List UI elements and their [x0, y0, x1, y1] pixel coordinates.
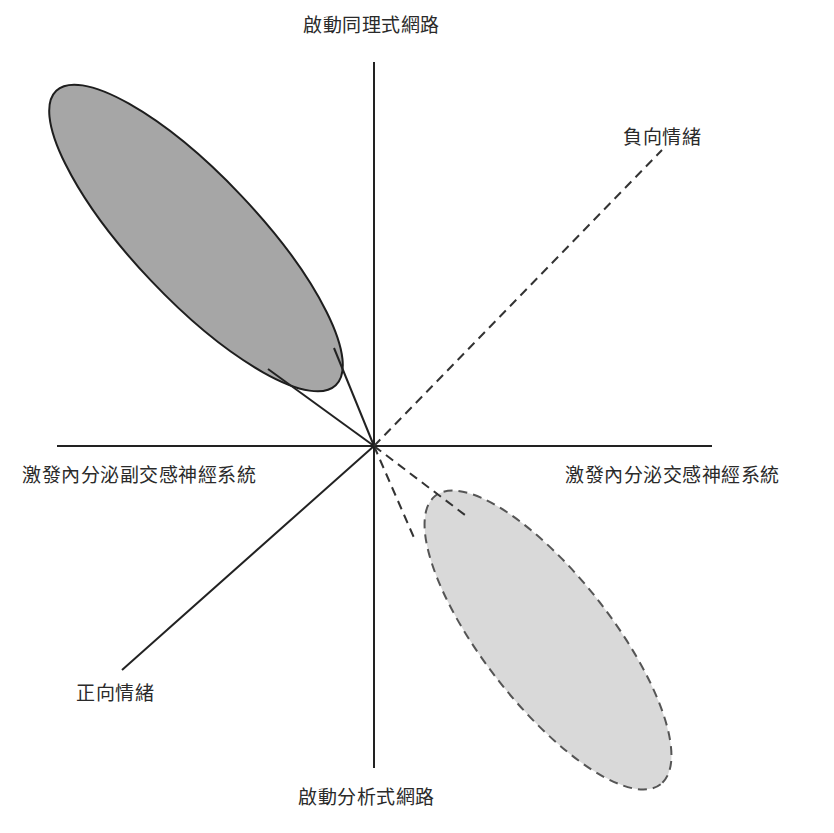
- dashed-tangent-1: [374, 446, 465, 515]
- positive-emotion-ellipse: [11, 48, 380, 428]
- negative-emotion-ellipse: [385, 456, 711, 823]
- axis-label-left: 激發內分泌副交感神經系統: [22, 460, 256, 487]
- axis-label-right: 激發內分泌交感神經系統: [565, 460, 780, 487]
- diagonal-label-positive: 正向情緒: [76, 678, 154, 705]
- negative-emotion-diagonal: [374, 150, 662, 446]
- diagonal-label-negative: 負向情緒: [623, 122, 701, 149]
- diagram-canvas: [0, 0, 834, 833]
- dashed-tangent-2: [374, 446, 415, 540]
- axis-label-bottom: 啟動分析式網路: [298, 782, 435, 809]
- axis-label-top: 啟動同理式網路: [303, 10, 440, 37]
